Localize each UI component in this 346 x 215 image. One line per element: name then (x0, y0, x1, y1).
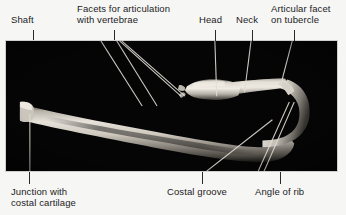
label-facets-for-articulation: Facets for articulation with vertebrae (77, 3, 170, 25)
label-head: Head (199, 14, 222, 25)
label-junction-with-costal-cartilage: Junction with costal cartilage (11, 186, 76, 208)
label-articular-facet-on-tubercle: Articular facet on tubercle (271, 3, 331, 25)
label-neck: Neck (236, 14, 258, 25)
rib-photo-svg (6, 41, 337, 171)
label-shaft: Shaft (11, 14, 34, 25)
label-costal-groove: Costal groove (167, 186, 227, 197)
rib-photograph (5, 40, 338, 172)
figure-root: Shaft Facets for articulation with verte… (0, 0, 346, 215)
label-angle-of-rib: Angle of rib (255, 186, 304, 197)
